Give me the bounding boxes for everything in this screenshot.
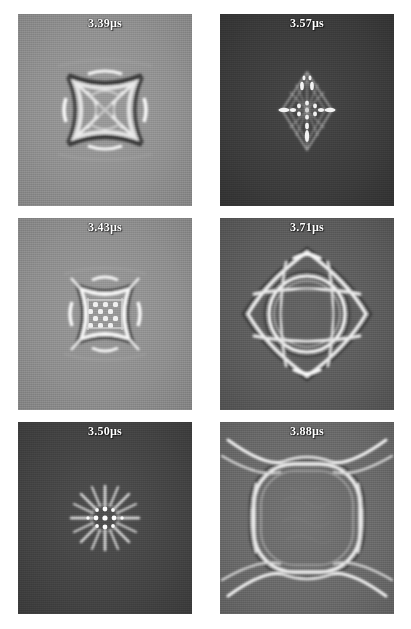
panel-3-43us: 3.43µs — [18, 218, 192, 410]
panel-3-71us: 3.71µs — [220, 218, 394, 410]
panel-label-3-88us: 3.88µs — [220, 424, 394, 438]
panel-label-3-71us: 3.71µs — [220, 220, 394, 234]
caustic-image-3-57us — [220, 14, 394, 206]
caustic-image-3-88us — [220, 422, 394, 614]
caustic-image-3-39us — [18, 14, 192, 206]
caustic-image-3-71us — [220, 218, 394, 410]
panel-label-3-57us: 3.57µs — [220, 16, 394, 30]
panel-3-50us: 3.50µs — [18, 422, 192, 614]
panel-3-39us: 3.39µs — [18, 14, 192, 206]
panel-3-57us: 3.57µs — [220, 14, 394, 206]
panel-label-3-43us: 3.43µs — [18, 220, 192, 234]
caustic-image-3-50us — [18, 422, 192, 614]
panel-label-3-39us: 3.39µs — [18, 16, 192, 30]
panel-3-88us: 3.88µs — [220, 422, 394, 614]
panel-grid: 3.39µs — [18, 14, 394, 615]
caustic-image-3-43us — [18, 218, 192, 410]
panel-label-3-50us: 3.50µs — [18, 424, 192, 438]
